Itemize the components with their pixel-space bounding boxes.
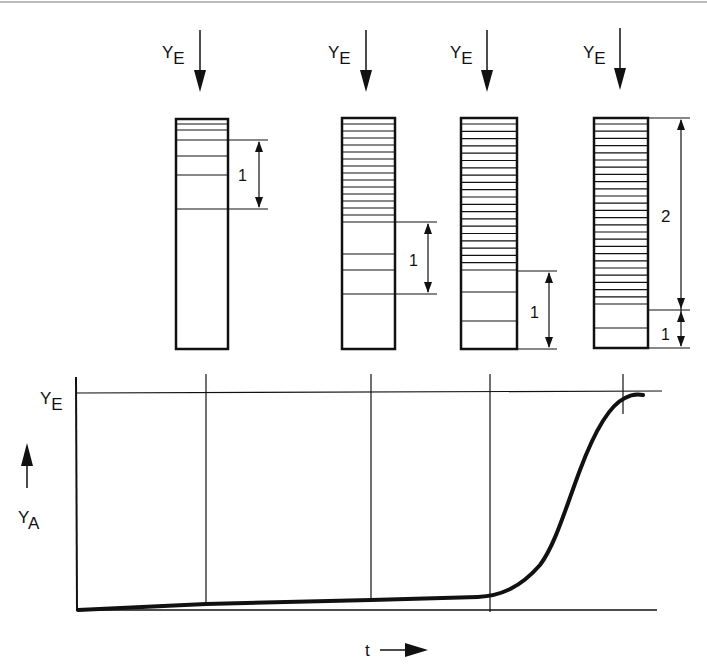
y-axis-label: YA bbox=[18, 508, 40, 533]
dim-label-4-lower: 1 bbox=[661, 326, 670, 343]
column-2 bbox=[342, 118, 437, 349]
diagram-canvas: YE YE YE YE 1 bbox=[0, 0, 707, 666]
column-3 bbox=[461, 118, 557, 349]
x-axis-label: t bbox=[365, 641, 370, 660]
y-axis bbox=[76, 377, 77, 611]
response-curve bbox=[78, 394, 643, 610]
input-arrow-2: YE bbox=[328, 30, 372, 92]
dim-label-4-upper: 2 bbox=[661, 207, 670, 226]
ye-label-3: YE bbox=[450, 43, 473, 68]
dim-label-3: 1 bbox=[530, 304, 539, 321]
ye-label-4: YE bbox=[583, 43, 606, 68]
input-arrow-3: YE bbox=[450, 30, 493, 92]
graph-ye-label: YE bbox=[40, 389, 63, 414]
input-arrow-4: YE bbox=[583, 28, 626, 90]
graph bbox=[76, 374, 662, 612]
ye-label-1: YE bbox=[162, 43, 185, 68]
dim-label-1: 1 bbox=[238, 167, 247, 184]
column-1 bbox=[176, 119, 268, 349]
x-axis-arrow-icon bbox=[380, 643, 428, 657]
input-arrow-1: YE bbox=[162, 30, 206, 92]
ye-level-line bbox=[76, 391, 662, 393]
y-axis-arrow-icon bbox=[21, 443, 33, 488]
column-4 bbox=[594, 118, 690, 348]
dim-label-2: 1 bbox=[409, 252, 418, 269]
ye-label-2: YE bbox=[328, 43, 351, 68]
